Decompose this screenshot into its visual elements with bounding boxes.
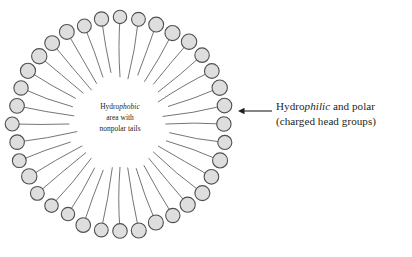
lipid-tail [153,42,189,84]
lipid-tail [101,19,110,72]
micelle-diagram-svg [0,0,412,257]
lipid-head-group [12,154,26,168]
lipid-head-group [59,25,74,40]
side-label-line-1: Hydrophilic and polar [276,99,412,114]
lipid-head-group [14,81,28,95]
lipid-head-group [10,135,25,150]
lipid-head-group [30,186,44,200]
lipid-head-group [113,10,126,23]
lipid-tail [83,170,103,225]
lipid-tail [52,158,92,205]
lipid-tail [84,26,103,77]
lipid-tail [67,32,97,83]
lipid-head-group [22,169,37,184]
lipid-head-group [149,17,164,32]
lipid-head-group [204,169,219,184]
lipid-head-group [132,12,146,26]
lipid-head-group [165,26,180,41]
lipid-tail [68,168,95,214]
lipid-head-group [195,48,209,62]
micelle-figure: Hydrophobic area with nonpolar tails Hyd… [0,0,412,257]
lipid-tail [158,55,202,92]
lipid-tail [37,153,85,194]
lipid-head-group [77,19,91,33]
lipid-tail [136,169,156,223]
lipid-tail [166,141,220,161]
lipid-head-group [76,218,91,233]
lipid-head-group [32,49,47,64]
lipid-head-group [217,98,232,113]
lipid-tail [17,132,77,143]
lipid-head-group [213,153,228,168]
lipid-tail [158,71,212,102]
lipid-tail [158,146,211,177]
lipid-tail [163,106,225,117]
lipid-head-group [217,117,231,131]
lipid-tail [52,43,91,90]
lipid-head-group [212,80,227,95]
lipid-head-group [10,98,25,113]
lipid-tail [166,123,224,124]
lipid-head-group [181,34,196,49]
lipid-head-group [20,63,35,78]
lipid-tail [17,106,74,116]
lipid-tail [128,168,139,231]
hydrophilic-head-label: Hydrophilic and polar (charged head grou… [276,99,412,128]
lipid-head-group [45,199,58,212]
lipid-tail [19,142,70,161]
lipid-head-group [218,135,232,149]
lipid-head-group [113,224,128,239]
lipid-head-group [61,207,74,220]
lipid-tail [144,165,173,215]
lipid-tail [119,17,120,77]
lipid-tail [119,167,120,231]
lipid-head-group [94,12,108,26]
lipid-tail [170,133,225,143]
lipid-head-group [45,36,60,51]
lipid-tail [101,168,112,230]
arrow-left-icon [238,108,245,114]
lipid-tail [128,19,138,78]
lipid-head-group [204,64,219,79]
annotation-arrow-group [238,108,272,114]
lipid-tail [29,146,82,176]
center-label-line-1: Hydrophobic [72,101,168,112]
side-label-line-2: (charged head groups) [276,114,412,129]
lipid-tail [39,56,83,93]
lipid-head-group [5,117,19,131]
hydrophobic-core-label: Hydrophobic area with nonpolar tails [72,101,168,135]
center-label-line-3: nonpolar tails [72,123,168,134]
lipid-head-group [131,223,146,238]
center-label-line-2: area with [72,112,168,123]
lipid-head-group [180,197,195,212]
lipid-head-group [166,208,180,222]
lipid-head-group [94,223,108,237]
lipid-head-group [195,186,210,201]
lipid-tail [21,88,72,107]
lipid-head-group [148,215,163,230]
lipid-tail [145,33,173,81]
